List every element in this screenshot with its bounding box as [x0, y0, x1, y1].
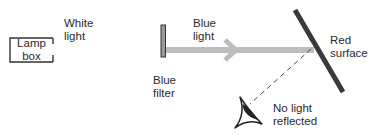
blue-filter-line1: Blue [153, 74, 176, 87]
blue-light-line1: Blue [193, 17, 216, 30]
lamp-box-label: Lamp box [10, 37, 53, 63]
red-surface-label: Red surface [330, 34, 368, 60]
red-surface-line1: Red [330, 34, 368, 47]
blue-light-label: Blue light [193, 17, 216, 43]
no-light-reflected-label: No light reflected [273, 102, 317, 128]
no-light-line2: reflected [273, 115, 317, 128]
blue-filter-label: Blue filter [153, 74, 176, 100]
blue-light-beam [166, 40, 314, 60]
white-light-line2: light [64, 30, 93, 43]
white-light-label: White light [64, 17, 93, 43]
reflection-dashed-line [250, 49, 311, 104]
lamp-box-line1: Lamp [10, 37, 53, 50]
white-light-line1: White [64, 17, 93, 30]
eye-icon [235, 97, 262, 128]
red-surface-line2: surface [330, 47, 368, 60]
blue-light-line2: light [193, 30, 216, 43]
lamp-box-line2: box [10, 50, 53, 63]
blue-filter-bar [161, 25, 166, 57]
no-light-line1: No light [273, 102, 317, 115]
blue-filter-line2: filter [153, 87, 176, 100]
